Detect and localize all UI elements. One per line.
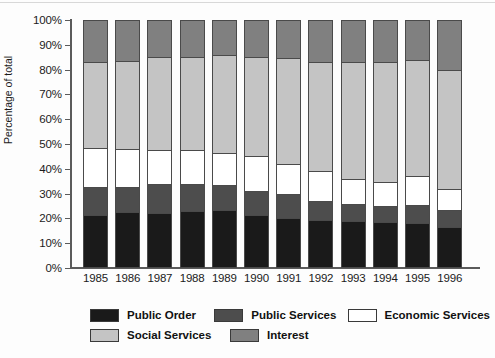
bar-segment[interactable] xyxy=(405,60,430,177)
bar-segment[interactable] xyxy=(244,156,269,191)
x-axis-tick-label: 1992 xyxy=(308,272,333,284)
bar-segment[interactable] xyxy=(212,55,237,153)
stacked-bar[interactable] xyxy=(276,20,301,268)
bar-segment[interactable] xyxy=(244,191,269,215)
stacked-bar[interactable] xyxy=(83,20,108,268)
stacked-bar[interactable] xyxy=(341,20,366,268)
bar-segment[interactable] xyxy=(373,222,398,268)
bar-segment[interactable] xyxy=(308,20,333,62)
stacked-bar[interactable] xyxy=(244,20,269,268)
bar-segment[interactable] xyxy=(308,201,333,220)
bar-segment[interactable] xyxy=(180,57,205,150)
legend-swatch xyxy=(90,329,119,342)
bar-segment[interactable] xyxy=(147,213,172,268)
stacked-bar[interactable] xyxy=(405,20,430,268)
y-axis-tick-label: 10% xyxy=(39,237,62,249)
bar-segment[interactable] xyxy=(212,20,237,55)
bar-segment[interactable] xyxy=(308,220,333,268)
legend-item[interactable]: Social Services xyxy=(90,329,230,342)
bar-segment[interactable] xyxy=(276,58,301,163)
legend-swatch xyxy=(214,309,243,322)
legend-item[interactable]: Interest xyxy=(230,329,380,342)
bar-segment[interactable] xyxy=(147,184,172,214)
bar-segment[interactable] xyxy=(341,179,366,204)
legend-item[interactable]: Economic Services xyxy=(348,309,490,322)
bar-segment[interactable] xyxy=(180,211,205,268)
bar-segment[interactable] xyxy=(83,148,108,188)
bar-segment[interactable] xyxy=(276,218,301,268)
bar-segment[interactable] xyxy=(341,62,366,179)
y-axis-tick-label: 70% xyxy=(39,88,62,100)
bar-segment[interactable] xyxy=(276,164,301,194)
bar-segment[interactable] xyxy=(405,205,430,224)
bar-segment[interactable] xyxy=(180,150,205,183)
bar-segment[interactable] xyxy=(180,184,205,211)
bar-segment[interactable] xyxy=(276,20,301,58)
stacked-bar[interactable] xyxy=(308,20,333,268)
stacked-bar[interactable] xyxy=(147,20,172,268)
bar-segment[interactable] xyxy=(83,215,108,268)
x-axis-tick-label: 1988 xyxy=(180,272,205,284)
x-axis-tick-label: 1995 xyxy=(405,272,430,284)
stacked-bar[interactable] xyxy=(212,20,237,268)
bar-segment[interactable] xyxy=(437,227,462,268)
stacked-bar[interactable] xyxy=(115,20,140,268)
bar-segment[interactable] xyxy=(115,187,140,212)
bar-segment[interactable] xyxy=(308,62,333,171)
x-axis-tick-label: 1994 xyxy=(373,272,398,284)
legend-item[interactable]: Public Order xyxy=(90,309,214,322)
bar-segment[interactable] xyxy=(373,20,398,62)
y-axis-title: Percentage of total xyxy=(2,56,14,144)
bar-segment[interactable] xyxy=(373,182,398,206)
bar-series-group xyxy=(71,20,471,268)
bar-segment[interactable] xyxy=(83,62,108,148)
bar-segment[interactable] xyxy=(244,215,269,268)
bar-segment[interactable] xyxy=(244,57,269,156)
bar-segment[interactable] xyxy=(83,20,108,62)
x-axis-tick-label: 1986 xyxy=(115,272,140,284)
bar-segment[interactable] xyxy=(437,189,462,210)
stacked-bar[interactable] xyxy=(180,20,205,268)
y-axis-tick-label: 30% xyxy=(39,188,62,200)
bar-segment[interactable] xyxy=(341,204,366,221)
bar-segment[interactable] xyxy=(147,57,172,150)
y-axis-tick-label: 100% xyxy=(33,14,62,26)
bar-segment[interactable] xyxy=(341,20,366,62)
bar-segment[interactable] xyxy=(405,176,430,205)
bar-segment[interactable] xyxy=(276,194,301,219)
legend-label: Economic Services xyxy=(385,309,490,321)
bar-segment[interactable] xyxy=(115,212,140,268)
bar-segment[interactable] xyxy=(115,149,140,187)
legend-row-2: Social ServicesInterest xyxy=(90,325,490,345)
x-axis-tick-label: 1989 xyxy=(212,272,237,284)
bar-segment[interactable] xyxy=(115,20,140,61)
bar-segment[interactable] xyxy=(405,20,430,60)
stacked-bar[interactable] xyxy=(373,20,398,268)
bar-segment[interactable] xyxy=(212,210,237,268)
bar-segment[interactable] xyxy=(437,210,462,227)
bar-segment[interactable] xyxy=(373,206,398,222)
bar-segment[interactable] xyxy=(212,153,237,185)
bar-segment[interactable] xyxy=(437,20,462,70)
bar-segment[interactable] xyxy=(308,171,333,201)
bar-segment[interactable] xyxy=(115,61,140,149)
legend-swatch xyxy=(230,329,259,342)
bar-segment[interactable] xyxy=(147,150,172,183)
bar-segment[interactable] xyxy=(405,223,430,268)
chart-legend: Public OrderPublic ServicesEconomic Serv… xyxy=(90,305,490,345)
y-axis-tick-label: 80% xyxy=(39,64,62,76)
stacked-bar[interactable] xyxy=(437,20,462,268)
x-axis-tick-label: 1990 xyxy=(244,272,269,284)
legend-item[interactable]: Public Services xyxy=(214,309,347,322)
bar-segment[interactable] xyxy=(83,187,108,214)
bar-segment[interactable] xyxy=(147,20,172,57)
bar-segment[interactable] xyxy=(180,20,205,57)
bar-segment[interactable] xyxy=(212,185,237,210)
bar-segment[interactable] xyxy=(373,62,398,182)
bar-segment[interactable] xyxy=(341,221,366,268)
y-axis-tick xyxy=(65,268,71,269)
y-axis-tick-label: 20% xyxy=(39,212,62,224)
bar-segment[interactable] xyxy=(244,20,269,57)
bar-segment[interactable] xyxy=(437,70,462,189)
y-axis-tick-label: 40% xyxy=(39,163,62,175)
